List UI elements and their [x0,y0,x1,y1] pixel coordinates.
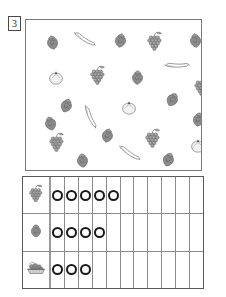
orange-icon [48,70,64,85]
tally-cell[interactable] [93,177,107,213]
tally-cell[interactable] [65,177,79,213]
banana-icon [72,30,98,46]
grapes-icon [193,76,202,96]
strawberry-icon [130,70,144,86]
strawberry-icon [30,223,42,241]
tally-row-icon-cell [23,177,51,213]
tally-cell[interactable] [134,177,148,213]
tally-cell[interactable] [148,214,162,250]
tally-cell[interactable] [190,252,203,288]
tally-cell[interactable] [107,177,121,213]
grapes-icon [144,128,161,148]
count-ring [52,264,63,275]
strawberry-icon [99,127,115,145]
grapes-icon [89,65,106,85]
fruit-tally-grid[interactable] [22,176,204,289]
tally-cell[interactable] [121,177,135,213]
count-ring [52,227,63,238]
tally-cell[interactable] [162,214,176,250]
tally-cell[interactable] [65,252,79,288]
count-ring [80,227,91,238]
orange-icon [190,138,202,153]
tally-row-icon-cell [23,214,51,250]
tally-cell[interactable] [190,177,203,213]
tally-row-cells [51,252,203,288]
strawberry-icon [160,150,177,169]
tally-row-icon-cell [23,252,51,288]
tally-cell[interactable] [148,252,162,288]
orange-icon [121,100,137,115]
count-ring [66,190,77,201]
tally-row-cells [51,214,203,250]
tally-cell[interactable] [190,214,203,250]
strawberry-icon [58,96,76,115]
tally-cell[interactable] [134,252,148,288]
tally-cell[interactable] [121,214,135,250]
tally-cell[interactable] [176,252,190,288]
grapes-icon [48,132,65,152]
banana-icon [163,54,190,76]
tally-cell[interactable] [93,252,107,288]
tally-row [23,252,203,288]
count-ring [52,190,63,201]
tally-cell[interactable] [134,214,148,250]
tally-cell[interactable] [51,252,65,288]
strawberry-icon [42,114,59,132]
tally-cell[interactable] [79,214,93,250]
tally-cell[interactable] [176,214,190,250]
count-ring [108,190,119,201]
tally-cell[interactable] [162,177,176,213]
tally-cell[interactable] [51,214,65,250]
tally-cell[interactable] [148,177,162,213]
count-ring [80,190,91,201]
tally-row [23,214,203,251]
strawberry-icon [113,32,128,49]
tally-cell[interactable] [51,177,65,213]
strawberry-icon [191,111,202,128]
tally-row [23,177,203,214]
grapes-icon [28,184,44,206]
tally-cell[interactable] [79,252,93,288]
tally-row-cells [51,177,203,213]
tally-cell[interactable] [107,252,121,288]
banana-icon [78,104,105,130]
worksheet-page: 3 [0,0,226,297]
tally-cell[interactable] [162,252,176,288]
fruit-basket-icon [26,261,46,279]
count-ring [94,227,105,238]
count-ring [66,264,77,275]
strawberry-icon [188,32,202,49]
strawberry-icon [45,34,61,51]
tally-cell[interactable] [107,214,121,250]
exercise-number-badge: 3 [8,16,21,31]
fruit-picture-panel [25,19,202,171]
tally-cell[interactable] [93,214,107,250]
count-ring [80,264,91,275]
banana-icon [117,144,143,161]
count-ring [94,190,105,201]
tally-cell[interactable] [176,177,190,213]
tally-cell[interactable] [79,177,93,213]
strawberry-icon [163,90,182,109]
tally-cell[interactable] [121,252,135,288]
count-ring [66,227,77,238]
strawberry-icon [75,152,89,168]
tally-cell[interactable] [65,214,79,250]
grapes-icon [146,31,163,51]
